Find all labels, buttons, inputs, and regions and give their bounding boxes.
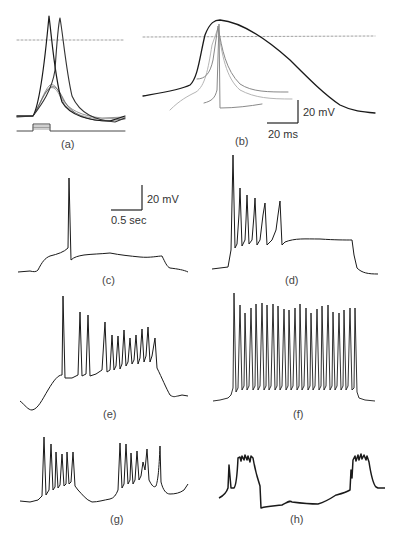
figure-canvas <box>0 0 402 541</box>
panel-label-b: (b) <box>235 135 248 147</box>
panel-label-e: (e) <box>103 408 116 420</box>
scale-bar-b-time-label: 20 ms <box>268 128 298 140</box>
panel-a-traces <box>17 16 125 131</box>
panel-d-trace <box>212 155 378 274</box>
panel-b-traces <box>143 20 375 113</box>
panel-label-f: (f) <box>293 408 303 420</box>
panel-f-trace <box>213 293 375 401</box>
panel-label-a: (a) <box>61 138 74 150</box>
panel-e-trace <box>20 296 188 410</box>
panel-g-trace <box>20 437 188 502</box>
panel-label-g: (g) <box>110 513 123 525</box>
panel-label-d: (d) <box>285 274 298 286</box>
scale-bar-c-time-label: 0.5 sec <box>111 214 146 226</box>
panel-label-c: (c) <box>102 274 115 286</box>
scale-bar-c-voltage-label: 20 mV <box>147 193 179 205</box>
scale-bar-b-voltage-label: 20 mV <box>303 106 335 118</box>
panel-h-trace <box>219 454 385 508</box>
scale-bar-c <box>111 185 142 210</box>
scale-bar-b <box>267 100 298 123</box>
panel-label-h: (h) <box>290 513 303 525</box>
